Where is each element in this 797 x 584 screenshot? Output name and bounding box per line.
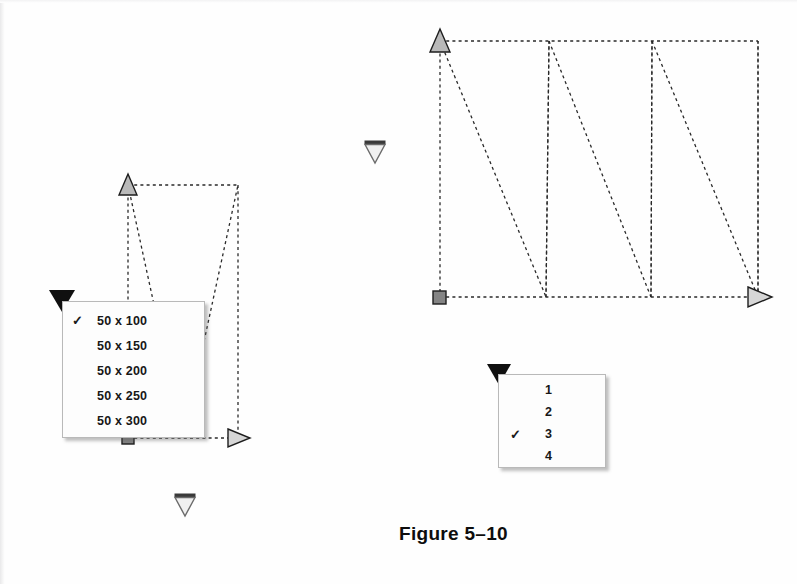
- figure-page: ✓ 50 x 100 50 x 150 50 x 200 50 x 250 50…: [0, 0, 797, 584]
- figure-caption-text: Figure 5–10: [399, 523, 508, 545]
- menu-item-label: 50 x 100: [93, 314, 147, 328]
- menu-item[interactable]: 50 x 200: [63, 358, 204, 383]
- menu-item[interactable]: 50 x 150: [63, 333, 204, 358]
- zigzag-seg-1: [440, 41, 546, 297]
- figure-caption: Figure 5–10: [0, 523, 797, 545]
- zigzag-seg-4: [651, 41, 652, 297]
- menu-item[interactable]: 50 x 300: [63, 408, 204, 433]
- square-marker[interactable]: [433, 291, 446, 304]
- menu-item[interactable]: 1: [499, 379, 605, 401]
- zigzag-path-large: [0, 0, 797, 584]
- menu-item-label: 1: [533, 383, 552, 397]
- zigzag-seg-5: [652, 41, 758, 297]
- menu-item-label: 50 x 200: [93, 364, 147, 378]
- triangle-down-outline-icon: [175, 498, 195, 517]
- menu-item[interactable]: ✓ 3: [499, 423, 605, 445]
- menu-item-label: 50 x 300: [93, 414, 147, 428]
- rect-size-dropdown[interactable]: ✓ 50 x 100 50 x 150 50 x 200 50 x 250 50…: [62, 301, 205, 438]
- zigzag-seg-2: [546, 41, 549, 297]
- menu-item-label: 50 x 250: [93, 389, 147, 403]
- triangle-down-outline-icon: [365, 145, 385, 164]
- menu-item[interactable]: 4: [499, 445, 605, 467]
- menu-item[interactable]: ✓ 50 x 100: [63, 308, 204, 333]
- menu-item[interactable]: 2: [499, 401, 605, 423]
- menu-item-label: 2: [533, 405, 552, 419]
- check-icon: ✓: [499, 427, 533, 442]
- check-icon: ✓: [63, 313, 93, 328]
- menu-item[interactable]: 50 x 250: [63, 383, 204, 408]
- triangle-right-marker[interactable]: [748, 287, 772, 307]
- zigzag-seg-3: [549, 41, 651, 297]
- menu-item-label: 4: [533, 449, 552, 463]
- menu-item-label: 3: [533, 427, 552, 441]
- zigzag-count-dropdown[interactable]: 1 2 ✓ 3 4: [498, 374, 606, 468]
- triangle-down-marker-a[interactable]: [363, 139, 387, 165]
- menu-item-label: 50 x 150: [93, 339, 147, 353]
- triangle-down-marker-b[interactable]: [173, 492, 197, 518]
